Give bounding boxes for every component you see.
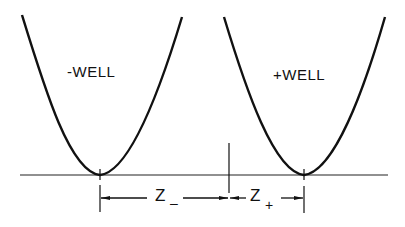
z-plus-label: Z (250, 186, 260, 206)
z-minus-subscript: – (170, 195, 178, 211)
negative-well-curve (22, 15, 182, 175)
positive-well-label: +WELL (273, 66, 325, 83)
diagram-lines (0, 0, 405, 227)
double-well-diagram: -WELL +WELL Z – Z + (0, 0, 405, 227)
z-plus-left-arrowhead (230, 196, 239, 200)
z-plus-right-arrowhead (294, 196, 303, 200)
z-minus-label: Z (155, 186, 165, 206)
positive-well-curve (224, 17, 385, 175)
negative-well-label: -WELL (67, 63, 115, 80)
z-minus-right-arrowhead (219, 196, 228, 200)
z-plus-subscript: + (265, 197, 273, 213)
z-minus-left-arrowhead (101, 196, 110, 200)
